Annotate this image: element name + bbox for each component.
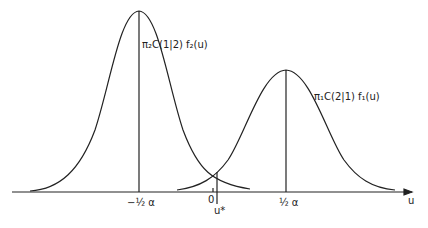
origin-label: 0 [208,195,214,205]
left-density-curve [30,11,250,191]
diagram-canvas [0,0,428,228]
threshold-label: u* [214,206,225,216]
left-tick-label: −½ α [127,198,155,208]
left-curve-label: π₂C(1|2) f₂(u) [142,40,208,50]
right-tick-label: ½ α [279,198,298,208]
axis-label: u [408,196,414,206]
right-curve-label: π₁C(2|1) f₁(u) [314,92,380,102]
